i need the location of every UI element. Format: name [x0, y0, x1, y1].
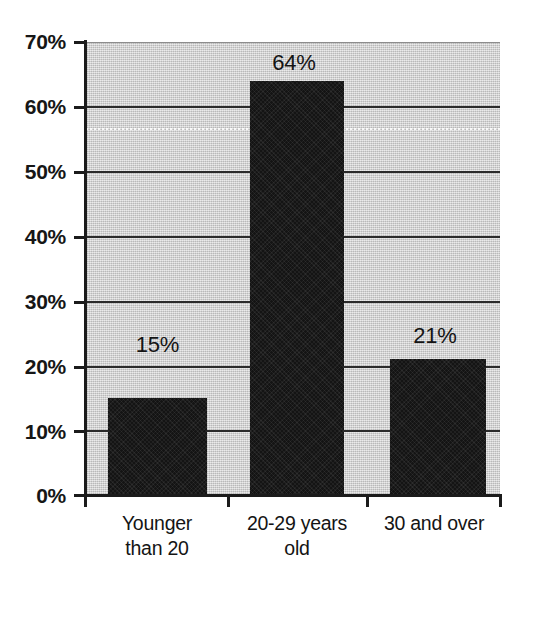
category-label-line-1: 20-29 years	[227, 511, 367, 536]
x-axis-line	[84, 494, 502, 497]
plot-area	[86, 42, 500, 495]
bar-chart: 70% 60% 50% 40% 30% 20% 10% 0% 15% 64% 2…	[0, 0, 539, 617]
bar-30-and-over[interactable]	[390, 359, 486, 495]
y-tick-60	[74, 106, 86, 109]
category-label-line-1: 30 and over	[366, 511, 502, 536]
gridline-70	[86, 42, 500, 43]
x-tick-1	[227, 494, 230, 507]
value-label-younger-than-20: 15%	[88, 334, 227, 356]
x-tick-3	[499, 494, 502, 507]
category-label-line-1: Younger	[86, 511, 228, 536]
y-axis-label-50: 50%	[0, 161, 66, 182]
y-tick-10	[74, 430, 86, 433]
value-label-20-29-years-old: 64%	[231, 52, 357, 74]
y-tick-40	[74, 236, 86, 239]
value-label-30-and-over: 21%	[371, 325, 499, 347]
bar-younger-than-20[interactable]	[108, 398, 207, 495]
y-axis-label-10: 10%	[0, 421, 66, 442]
y-tick-50	[74, 171, 86, 174]
y-axis-label-70: 70%	[0, 31, 66, 52]
category-label-20-29-years-old: 20-29 years old	[227, 511, 367, 561]
y-axis-label-0: 0%	[0, 485, 66, 506]
bar-20-29-years-old[interactable]	[250, 81, 344, 495]
x-tick-0	[84, 494, 87, 507]
y-tick-70	[74, 41, 86, 44]
y-axis-label-40: 40%	[0, 226, 66, 247]
y-axis-label-60: 60%	[0, 96, 66, 117]
category-label-younger-than-20: Younger than 20	[86, 511, 228, 561]
y-tick-30	[74, 301, 86, 304]
y-tick-20	[74, 366, 86, 369]
y-axis-label-30: 30%	[0, 291, 66, 312]
category-label-line-2: old	[227, 536, 367, 561]
x-tick-2	[366, 494, 369, 507]
category-label-line-2: than 20	[86, 536, 228, 561]
category-label-30-and-over: 30 and over	[366, 511, 502, 536]
y-axis-label-20: 20%	[0, 356, 66, 377]
